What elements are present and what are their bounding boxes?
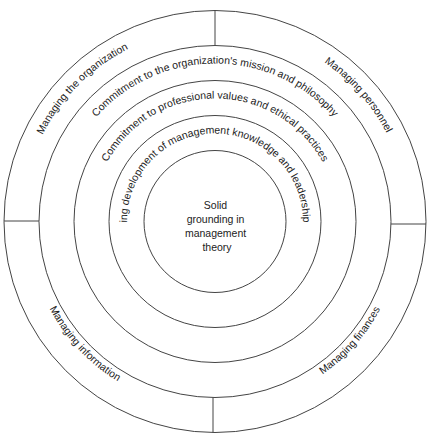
segment-label-managing-finances: Managing finances (317, 304, 383, 376)
segment-label-managing-personnel: Managing personnel (323, 54, 395, 134)
center-label: Solid grounding in management theory (185, 199, 249, 253)
ring-3-label: Commitment to the organization's mission… (89, 53, 342, 119)
concentric-diagram: Ongoing development of management knowle… (0, 0, 431, 442)
segment-label-managing-information: Managing information (48, 304, 124, 383)
